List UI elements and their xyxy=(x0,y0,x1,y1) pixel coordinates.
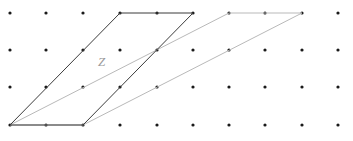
sheared-lattice-cell-outline xyxy=(10,13,302,125)
lattice-dot xyxy=(336,85,339,88)
light-parallelogram-group xyxy=(10,13,302,125)
lattice-dot xyxy=(336,48,339,51)
lattice-dot xyxy=(118,123,121,126)
lattice-dot xyxy=(263,48,266,51)
lattice-dot xyxy=(300,48,303,51)
lattice-dot xyxy=(8,11,11,14)
lattice-dot xyxy=(191,123,194,126)
fundamental-domain-outline xyxy=(10,13,193,125)
lattice-dot xyxy=(191,48,194,51)
lattice-dot xyxy=(300,85,303,88)
lattice-dot xyxy=(263,85,266,88)
lattice-dot xyxy=(81,11,84,14)
lattice-dot xyxy=(8,85,11,88)
lattice-dot xyxy=(227,85,230,88)
lattice-dot xyxy=(227,123,230,126)
lattice-dot xyxy=(44,11,47,14)
lattice-diagram-canvas xyxy=(0,0,353,141)
dark-parallelogram-group xyxy=(10,13,193,125)
lattice-dot xyxy=(191,85,194,88)
lattice-dot xyxy=(8,48,11,51)
z-label: Z xyxy=(98,55,105,68)
lattice-dot xyxy=(118,48,121,51)
lattice-dot xyxy=(155,123,158,126)
lattice-dot xyxy=(336,123,339,126)
lattice-dot xyxy=(300,123,303,126)
lattice-dot-grid xyxy=(8,11,339,126)
lattice-dot xyxy=(44,48,47,51)
lattice-figure: Z xyxy=(0,0,353,141)
lattice-dot xyxy=(263,123,266,126)
lattice-dot xyxy=(336,11,339,14)
